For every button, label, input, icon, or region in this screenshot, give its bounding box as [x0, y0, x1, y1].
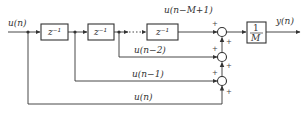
sign-plus: + — [212, 20, 218, 28]
svg-text:z⁻¹: z⁻¹ — [93, 27, 107, 37]
tap-line-0 — [28, 32, 222, 104]
output-label: y(n) — [275, 16, 294, 26]
sign-plus: + — [226, 88, 232, 96]
delay-block-3: z⁻¹ — [147, 24, 178, 40]
svg-text:1: 1 — [253, 23, 259, 33]
summer-3 — [218, 77, 227, 86]
sign-plus: + — [226, 38, 232, 46]
sign-plus: + — [212, 45, 218, 53]
sign-plus: + — [226, 62, 232, 70]
input-label: u(n) — [8, 18, 27, 28]
svg-text:z⁻¹: z⁻¹ — [155, 27, 169, 37]
summer-1 — [218, 28, 227, 37]
tap-label-top: u(n−M+1) — [164, 5, 213, 15]
delay-block-1: z⁻¹ — [41, 24, 68, 40]
summer-2 — [218, 53, 227, 62]
svg-text:z⁻¹: z⁻¹ — [47, 27, 61, 37]
tap-label-0: u(n) — [134, 92, 153, 102]
tap-label-2: u(n−2) — [134, 45, 166, 55]
sign-plus: + — [212, 69, 218, 77]
block-diagram: u(n) z⁻¹ z⁻¹ z⁻¹ u(n−M+1) u(n−2) u(n−1) … — [0, 0, 305, 115]
delay-block-2: z⁻¹ — [88, 24, 114, 40]
tap-label-1: u(n−1) — [132, 69, 164, 79]
gain-block: 1 M — [247, 22, 266, 43]
svg-text:M: M — [250, 33, 261, 43]
